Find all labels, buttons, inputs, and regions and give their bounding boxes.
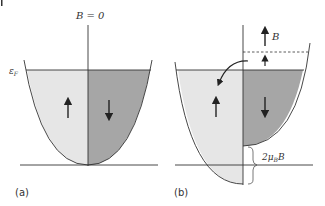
splitting-brace: [248, 147, 257, 184]
panel-label-b: (b): [174, 187, 188, 198]
panel-label-a: (a): [15, 187, 29, 198]
field-label-b: B: [271, 31, 279, 42]
fermi-label: εF: [9, 66, 19, 77]
corner-mark: [1, 0, 3, 6]
panel-a: B = 0 εF (a): [9, 10, 158, 198]
field-label-a: B = 0: [75, 10, 105, 21]
panel-b: B 2μBB (b): [174, 25, 313, 198]
down-spin-fill-a: [88, 70, 150, 165]
up-spin-fill-b: [178, 70, 243, 184]
splitting-label: 2μBB: [261, 152, 285, 163]
pauli-paramagnetism-diagram: B = 0 εF (a) B 2μBB (b): [0, 0, 325, 206]
